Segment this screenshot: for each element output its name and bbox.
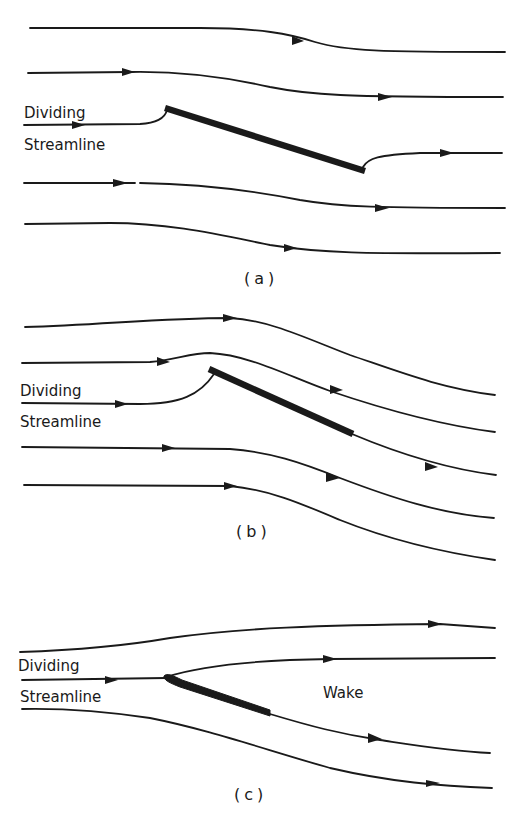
trailing-streamline-a bbox=[363, 153, 502, 167]
dividing-label-line1: Dividing bbox=[20, 382, 81, 400]
dividing-label-line1: Dividing bbox=[18, 657, 79, 675]
arrow-icon bbox=[284, 244, 297, 252]
arrow-icon bbox=[72, 121, 85, 129]
wake-label: Wake bbox=[323, 684, 363, 702]
flat-plate-a bbox=[165, 108, 365, 171]
arrow-icon bbox=[368, 733, 382, 743]
flat-plate-b bbox=[209, 369, 353, 434]
streamline-figure: Dividing Streamline (a) Dividing Streaml… bbox=[0, 0, 525, 824]
dividing-label-line2: Streamline bbox=[20, 688, 101, 706]
arrow-icon bbox=[162, 444, 175, 452]
dividing-label-line2: Streamline bbox=[24, 136, 105, 154]
streamline-b1 bbox=[25, 318, 495, 395]
trailing-streamline-b bbox=[352, 434, 496, 475]
panel-caption-a: (a) bbox=[244, 269, 278, 288]
arrow-icon bbox=[426, 780, 440, 787]
streamline-c1 bbox=[20, 624, 495, 652]
arrow-icon bbox=[323, 655, 337, 663]
dividing-streamline-c bbox=[22, 678, 166, 680]
panel-caption-c: (c) bbox=[234, 785, 267, 804]
arrow-icon bbox=[224, 482, 237, 490]
dividing-label-line2: Streamline bbox=[20, 413, 101, 431]
arrow-icon bbox=[105, 676, 118, 684]
streamline-a5 bbox=[25, 223, 500, 253]
arrow-icon bbox=[375, 204, 389, 212]
panel-c: Dividing Streamline Wake (c) bbox=[18, 620, 495, 804]
arrow-icon bbox=[223, 314, 237, 322]
arrow-icon bbox=[428, 620, 442, 628]
arrow-icon bbox=[113, 179, 128, 187]
arrow-icon bbox=[115, 400, 128, 408]
panel-b: Dividing Streamline (b) bbox=[20, 314, 496, 560]
arrow-icon bbox=[378, 93, 392, 101]
streamline-a1 bbox=[30, 28, 505, 52]
streamline-a2 bbox=[28, 72, 503, 97]
streamline-b4 bbox=[22, 447, 494, 518]
streamline-c5 bbox=[22, 709, 492, 788]
arrow-icon bbox=[122, 68, 135, 76]
lower-wake-streamline-c bbox=[270, 714, 490, 753]
streamline-a4 bbox=[24, 183, 505, 208]
panel-caption-b: (b) bbox=[236, 522, 271, 541]
arrow-icon bbox=[440, 149, 454, 157]
panel-a: Dividing Streamline (a) bbox=[24, 28, 505, 288]
flat-plate-c bbox=[164, 675, 270, 716]
arrow-icon bbox=[157, 357, 170, 366]
dividing-label-line1: Dividing bbox=[24, 104, 85, 122]
